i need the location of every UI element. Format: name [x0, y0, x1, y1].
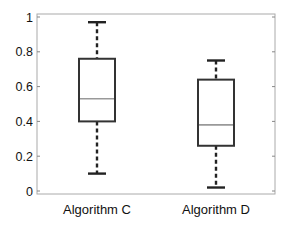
y-tick-label: 0 [26, 185, 33, 199]
iqr-box [198, 80, 234, 146]
iqr-box [79, 59, 115, 122]
y-tick-label: 0.4 [16, 115, 33, 129]
box-algorithm-c [79, 22, 115, 173]
plot-border [37, 14, 275, 194]
boxes [79, 22, 234, 187]
y-tick-label: 0.8 [16, 45, 33, 59]
y-tick-label: 0.2 [16, 150, 33, 164]
box-plot-chart: 00.20.40.60.81 Algorithm CAlgorithm D [0, 0, 289, 226]
plot-frame [37, 14, 275, 194]
x-axis: Algorithm CAlgorithm D [63, 202, 250, 217]
y-axis: 00.20.40.60.81 [16, 11, 275, 199]
x-category-label: Algorithm D [182, 202, 250, 217]
y-tick-label: 0.6 [16, 80, 33, 94]
box-algorithm-d [198, 61, 234, 188]
y-tick-label: 1 [26, 11, 33, 25]
x-category-label: Algorithm C [63, 202, 131, 217]
